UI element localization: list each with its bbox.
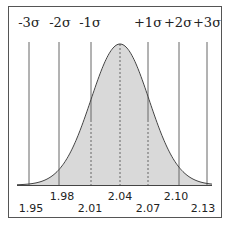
sigma-label-minus-2: -2σ: [49, 15, 71, 30]
x-tick-2-10: 2.10: [164, 190, 189, 203]
sigma-label-minus-3: -3σ: [18, 15, 40, 30]
x-tick-1-98: 1.98: [50, 190, 75, 203]
sigma-label-plus-3: +3σ: [193, 15, 221, 30]
x-tick-2-07: 2.07: [136, 202, 161, 215]
x-tick-2-01: 2.01: [78, 202, 103, 215]
x-tick-1-95: 1.95: [19, 202, 44, 215]
sigma-label-plus-1: +1σ: [134, 15, 162, 30]
x-tick-2-04: 2.04: [108, 190, 133, 203]
sigma-label-minus-1: -1σ: [79, 15, 101, 30]
normal-distribution-chart: -3σ -2σ -1σ +1σ +2σ +3σ 1.98 2.04 2.10 1…: [0, 0, 230, 226]
x-tick-2-13: 2.13: [191, 202, 216, 215]
sigma-label-plus-2: +2σ: [164, 15, 192, 30]
